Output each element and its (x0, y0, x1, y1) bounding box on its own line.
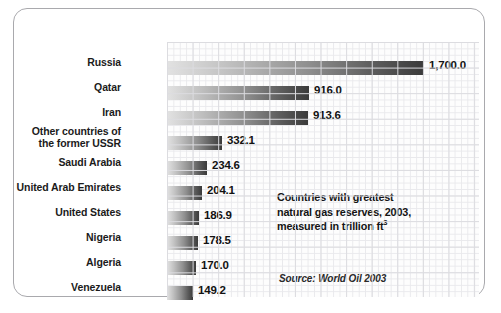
bar (167, 61, 424, 75)
chart-frame: Russia1,700.0Qatar916.0Iran913.6Other co… (13, 8, 485, 297)
bar (167, 211, 199, 225)
category-label: United Arab Emirates (0, 182, 121, 194)
bar (167, 161, 207, 175)
bar-row: Nigeria178.5 (167, 232, 479, 254)
bar-row: Russia1,700.0 (167, 57, 479, 79)
category-label: Algeria (0, 257, 121, 269)
category-label-line: Nigeria (0, 232, 121, 244)
category-label: Saudi Arabia (0, 157, 121, 169)
category-label: Nigeria (0, 232, 121, 244)
category-label-line: United Arab Emirates (0, 182, 121, 194)
chart-source-note: Source: World Oil 2003 (279, 273, 386, 284)
category-label-line: Qatar (0, 82, 121, 94)
bar-row: Other countries ofthe former USSR332.1 (167, 132, 479, 154)
bar (167, 111, 308, 125)
bar-value-label: 234.6 (212, 159, 240, 171)
category-label: Other countries ofthe former USSR (0, 126, 121, 149)
category-label: Russia (0, 57, 121, 69)
bar (167, 286, 193, 300)
category-label-line: the former USSR (0, 138, 121, 150)
category-label-line: United States (0, 207, 121, 219)
bar (167, 86, 309, 100)
annotation-line-3: measured in trillion ft3 (277, 219, 467, 234)
bar-value-label: 204.1 (207, 184, 235, 196)
bar-value-label: 913.6 (313, 109, 341, 121)
category-label: Iran (0, 107, 121, 119)
bar-row: Iran913.6 (167, 107, 479, 129)
category-label-line: Other countries of (0, 126, 121, 138)
bar-row: Saudi Arabia234.6 (167, 157, 479, 179)
bar-value-label: 170.0 (201, 259, 229, 271)
annotation-line-3-text: measured in trillion ft (277, 220, 383, 232)
bar-value-label: 916.0 (314, 84, 342, 96)
bar-row: Qatar916.0 (167, 82, 479, 104)
category-label-line: Venezuela (0, 282, 121, 294)
bar-value-label: 186.9 (204, 209, 232, 221)
bar-row: Venezuela149.2 (167, 282, 479, 304)
category-label-line: Algeria (0, 257, 121, 269)
bar-value-label: 178.5 (203, 234, 231, 246)
chart-annotation: Countries with greatest natural gas rese… (277, 190, 467, 234)
category-label: Venezuela (0, 282, 121, 294)
chart-plot-area: Russia1,700.0Qatar916.0Iran913.6Other co… (167, 42, 479, 297)
bar-value-label: 149.2 (198, 284, 226, 296)
category-label-line: Iran (0, 107, 121, 119)
annotation-line-1: Countries with greatest (277, 190, 467, 205)
bar (167, 236, 198, 250)
category-label: United States (0, 207, 121, 219)
bar-value-label: 1,700.0 (429, 59, 466, 71)
bar (167, 261, 196, 275)
bar (167, 186, 202, 200)
category-label: Qatar (0, 82, 121, 94)
annotation-superscript: 3 (383, 218, 387, 227)
annotation-line-2: natural gas reserves, 2003, (277, 205, 467, 220)
category-label-line: Saudi Arabia (0, 157, 121, 169)
bar (167, 136, 222, 150)
bar-value-label: 332.1 (227, 134, 255, 146)
category-label-line: Russia (0, 57, 121, 69)
